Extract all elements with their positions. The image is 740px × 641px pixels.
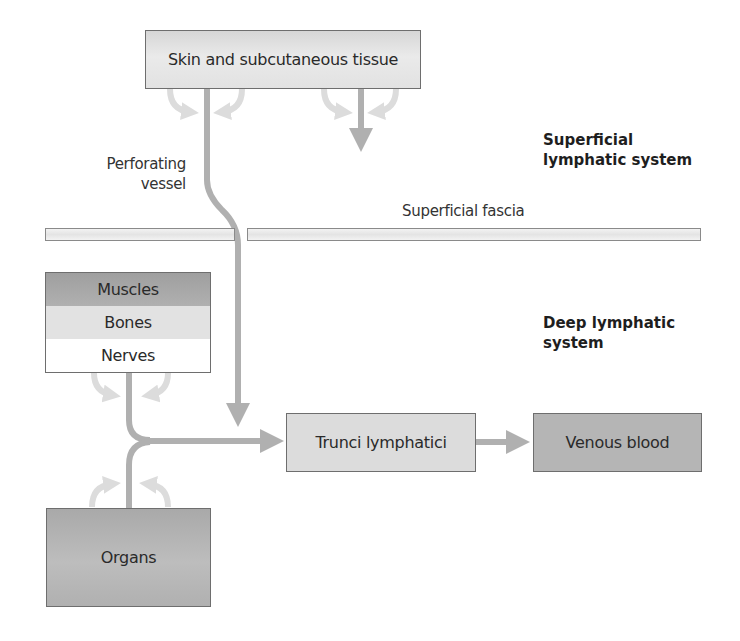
nerves-row: Nerves <box>46 339 210 372</box>
trunci-lymphatici-box: Trunci lymphatici <box>286 413 476 472</box>
trunci-label: Trunci lymphatici <box>315 433 446 452</box>
superficial-fascia-label: Superficial fascia <box>402 201 524 221</box>
fascia-bar-right <box>247 228 701 241</box>
organs-box: Organs <box>46 508 211 607</box>
deep-system-line2: system <box>543 333 675 353</box>
bones-row: Bones <box>46 306 210 339</box>
nerves-label: Nerves <box>101 346 155 365</box>
venous-blood-box: Venous blood <box>533 413 702 472</box>
bones-label: Bones <box>104 313 152 332</box>
deep-system-label: Deep lymphatic system <box>543 313 675 353</box>
organs-label: Organs <box>101 548 157 567</box>
fascia-bar-left <box>45 228 235 241</box>
skin-subcutaneous-box: Skin and subcutaneous tissue <box>145 30 421 89</box>
superficial-system-label: Superficial lymphatic system <box>543 130 692 170</box>
superficial-system-line2: lymphatic system <box>543 150 692 170</box>
deep-vessel-organs <box>129 442 150 508</box>
deep-system-line1: Deep lymphatic <box>543 313 675 333</box>
tissue-stack-box: Muscles Bones Nerves <box>45 272 211 373</box>
perforating-label-line2: vessel <box>88 174 186 194</box>
muscles-row: Muscles <box>46 273 210 306</box>
venous-label: Venous blood <box>566 433 670 452</box>
perforating-vessel-arrow <box>207 89 238 415</box>
muscles-label: Muscles <box>97 280 159 299</box>
perforating-label-line1: Perforating <box>88 154 186 174</box>
skin-label: Skin and subcutaneous tissue <box>168 50 398 69</box>
superficial-system-line1: Superficial <box>543 130 692 150</box>
deep-vessel-muscles <box>129 373 150 440</box>
perforating-vessel-label: Perforating vessel <box>88 154 186 194</box>
